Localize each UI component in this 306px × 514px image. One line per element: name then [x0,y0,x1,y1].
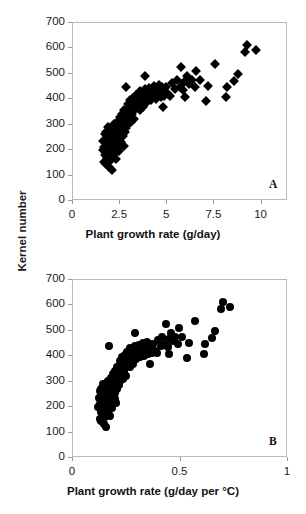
data-point [191,317,199,325]
y-tick-mark [68,47,72,48]
x-axis-title-a: Plant growth rate (g/day) [0,228,306,240]
x-tick-label: 1 [267,466,306,478]
x-tick-mark [287,457,288,461]
x-tick-mark [261,200,262,204]
data-point [185,339,193,347]
y-tick-mark [68,149,72,150]
y-tick-label: 400 [31,92,65,104]
y-tick-label: 300 [31,375,65,387]
y-tick-mark [68,175,72,176]
y-tick-mark [68,73,72,74]
data-point [131,329,139,337]
data-point [112,399,120,407]
x-tick-mark [119,200,120,204]
y-tick-label: 200 [31,143,65,155]
y-tick-label: 500 [31,67,65,79]
data-point [165,350,173,358]
panel-label-a: A [269,178,277,190]
x-tick-label: 5 [146,209,186,221]
x-tick-label: 10 [241,209,281,221]
x-tick-mark [180,457,181,461]
data-point [162,320,170,328]
data-point [122,372,130,380]
y-tick-label: 600 [31,41,65,53]
data-point [226,303,234,311]
y-tick-label: 300 [31,118,65,130]
x-axis-title-b: Plant growth rate (g/day per °C) [0,485,306,497]
x-tick-label: 7.5 [193,209,233,221]
y-tick-label: 400 [31,349,65,361]
x-tick-label: 2.5 [99,209,139,221]
data-point [175,324,183,332]
y-tick-mark [68,279,72,280]
x-tick-label: 0.5 [160,466,200,478]
panel-label-b: B [269,435,277,447]
x-tick-mark [166,200,167,204]
x-tick-mark [72,457,73,461]
y-tick-label: 100 [31,426,65,438]
y-tick-mark [68,98,72,99]
x-tick-label: 0 [52,466,92,478]
y-tick-mark [68,381,72,382]
y-tick-label: 0 [31,194,65,206]
y-tick-mark [68,22,72,23]
y-tick-mark [68,330,72,331]
data-point [211,327,219,335]
y-tick-label: 100 [31,169,65,181]
y-tick-mark [68,432,72,433]
x-tick-mark [72,200,73,204]
y-tick-mark [68,304,72,305]
figure-root: Kernel number A Plant growth rate (g/day… [0,0,306,514]
y-tick-mark [68,406,72,407]
y-tick-label: 500 [31,324,65,336]
panel-a: A Plant growth rate (g/day) 010020030040… [0,0,306,257]
y-tick-label: 0 [31,451,65,463]
panel-b: B Plant growth rate (g/day per °C) 01002… [0,257,306,514]
data-point [102,423,110,431]
x-tick-mark [213,200,214,204]
data-point [146,360,154,368]
data-point [153,349,161,357]
y-tick-mark [68,355,72,356]
data-point [106,412,114,420]
data-point [105,342,113,350]
y-tick-label: 700 [31,273,65,285]
y-tick-mark [68,124,72,125]
data-point [200,350,208,358]
x-tick-label: 0 [52,209,92,221]
y-tick-label: 200 [31,400,65,412]
data-point [183,354,191,362]
y-tick-label: 600 [31,298,65,310]
y-tick-label: 700 [31,16,65,28]
data-point [217,305,225,313]
